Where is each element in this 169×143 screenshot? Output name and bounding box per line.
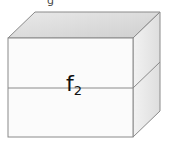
label-subscript: 2 bbox=[74, 83, 82, 98]
cropped-text-fragment: g bbox=[47, 0, 54, 7]
stacked-box-drawing bbox=[0, 0, 169, 143]
diagram-canvas: g f2 bbox=[0, 0, 169, 143]
label-base: f bbox=[66, 71, 74, 96]
block-label: f2 bbox=[66, 73, 82, 97]
